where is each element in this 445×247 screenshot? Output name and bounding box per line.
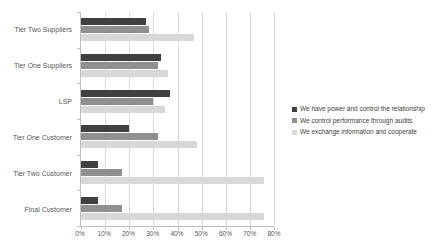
- category-label-row: Final Customer: [0, 191, 76, 227]
- category-axis-labels: Tier Two SuppliersTier One SuppliersLSPT…: [0, 12, 76, 227]
- category-label: Tier One Suppliers: [14, 62, 72, 69]
- x-axis-tick-label: 0%: [75, 231, 84, 238]
- bar: [81, 177, 264, 184]
- category-label: Tier Two Customer: [13, 170, 72, 177]
- legend-marker-icon: [292, 107, 297, 112]
- category-label-row: Tier One Customer: [0, 120, 76, 156]
- category-label: Tier One Customer: [13, 134, 72, 141]
- x-axis-tick-label: 20%: [122, 231, 135, 238]
- bar: [81, 98, 153, 105]
- category-label-row: Tier Two Suppliers: [0, 12, 76, 48]
- legend: We have power and control the relationsh…: [292, 106, 425, 141]
- x-axis-tick-label: 50%: [195, 231, 208, 238]
- bar: [81, 62, 158, 69]
- legend-item: We have power and control the relationsh…: [292, 106, 425, 113]
- value-axis-labels: 0%10%20%30%40%50%60%70%80%: [80, 231, 274, 241]
- category-label-row: LSP: [0, 84, 76, 120]
- bar: [81, 133, 158, 140]
- x-axis-tick-label: 70%: [243, 231, 256, 238]
- bar: [81, 205, 122, 212]
- gridline: [274, 12, 275, 226]
- bar: [81, 34, 194, 41]
- bar-group: [81, 48, 274, 84]
- legend-marker-icon: [292, 130, 297, 135]
- bar-group: [81, 12, 274, 48]
- legend-item: We control performance through audits: [292, 118, 425, 125]
- bar: [81, 213, 264, 220]
- bar-chart-figure: Tier Two SuppliersTier One SuppliersLSPT…: [0, 0, 445, 247]
- x-axis-tick-label: 30%: [146, 231, 159, 238]
- category-label-row: Tier One Suppliers: [0, 48, 76, 84]
- category-label: LSP: [59, 98, 72, 105]
- legend-item-label: We have power and control the relationsh…: [300, 106, 425, 113]
- category-label-row: Tier Two Customer: [0, 155, 76, 191]
- bar: [81, 54, 161, 61]
- bar: [81, 90, 170, 97]
- bar: [81, 197, 98, 204]
- legend-item-label: We control performance through audits: [300, 118, 412, 125]
- bar: [81, 125, 129, 132]
- x-axis-tick-label: 80%: [267, 231, 280, 238]
- bar: [81, 70, 168, 77]
- legend-item: We exchange information and cooperate: [292, 129, 425, 136]
- bar: [81, 26, 149, 33]
- bar: [81, 106, 165, 113]
- y-axis-tick: [77, 226, 81, 227]
- bar: [81, 161, 98, 168]
- x-axis-tick-label: 10%: [98, 231, 111, 238]
- legend-item-label: We exchange information and cooperate: [300, 129, 417, 136]
- category-label: Tier Two Suppliers: [14, 26, 72, 33]
- legend-marker-icon: [292, 118, 297, 123]
- bar-group: [81, 190, 274, 226]
- bar-group: [81, 155, 274, 191]
- x-axis-tick-label: 60%: [219, 231, 232, 238]
- bar-group: [81, 119, 274, 155]
- bar: [81, 141, 197, 148]
- bar: [81, 18, 146, 25]
- category-label: Final Customer: [25, 206, 72, 213]
- plot-area: [80, 12, 274, 227]
- x-axis-tick-label: 40%: [170, 231, 183, 238]
- bar: [81, 169, 122, 176]
- bar-group: [81, 83, 274, 119]
